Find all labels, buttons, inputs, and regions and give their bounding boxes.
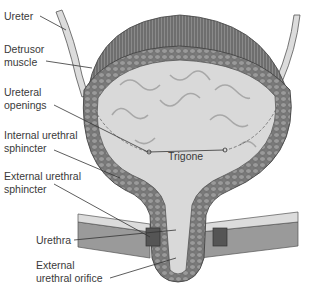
- label-urethra: Urethra: [36, 234, 71, 247]
- label-trigone: Trigone: [168, 150, 203, 163]
- label-internal-urethral-sphincter: Internal urethralsphincter: [4, 129, 78, 155]
- label-ureteral-openings: Ureteralopenings: [4, 86, 47, 112]
- label-external-urethral-orifice: Externalurethral orifice: [36, 259, 103, 285]
- ureter-right: [276, 15, 300, 82]
- label-detrusor-muscle: Detrusormuscle: [4, 43, 44, 69]
- external-sphincter-right: [213, 228, 227, 246]
- ureter-left: [56, 10, 88, 97]
- label-ureter: Ureter: [4, 10, 33, 23]
- external-sphincter-left: [146, 228, 160, 246]
- label-external-urethral-sphincter: External urethralsphincter: [4, 170, 81, 196]
